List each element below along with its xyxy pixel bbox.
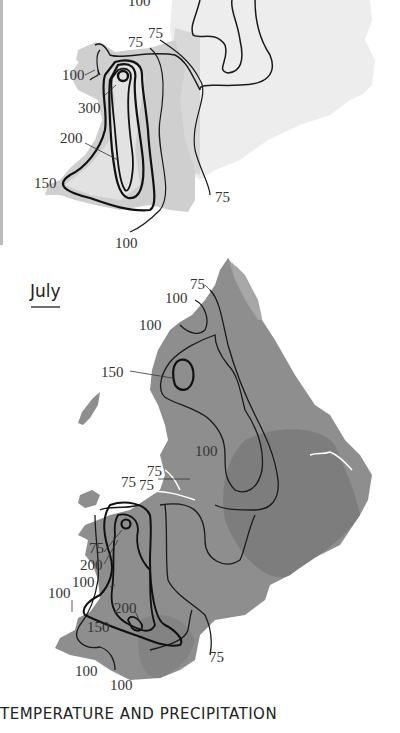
july-label-200-central: 200 <box>114 600 137 616</box>
july-label-75-c: 75 <box>139 477 154 493</box>
upper-label-100-south: 100 <box>115 235 138 251</box>
upper-label-75-se: 75 <box>215 189 230 205</box>
july-label-75-north: 75 <box>190 276 205 292</box>
upper-map: 100 75 75 100 300 200 150 75 100 <box>34 0 375 251</box>
rainfall-map-figure: 100 75 75 100 300 200 150 75 100 July <box>0 0 400 733</box>
upper-label-150: 150 <box>34 175 57 191</box>
upper-label-100-west: 100 <box>62 67 85 83</box>
july-label-100-pennines: 100 <box>195 443 218 459</box>
july-label-75-west: 75 <box>89 540 104 556</box>
july-label-150: 150 <box>101 364 124 380</box>
map-title-july: July <box>29 281 61 301</box>
july-label-100-west-b: 100 <box>48 585 71 601</box>
figure-caption: TEMPERATURE AND PRECIPITATION <box>0 705 277 723</box>
july-label-100-south-b: 100 <box>110 677 133 693</box>
lower-map-july: July <box>29 255 380 693</box>
july-label-75-b: 75 <box>121 474 136 490</box>
july-label-100-west-a: 100 <box>72 574 95 590</box>
upper-label-100-top: 100 <box>128 0 151 9</box>
upper-label-200: 200 <box>60 130 83 146</box>
july-label-100-a: 100 <box>165 290 188 306</box>
july-label-150-central: 150 <box>87 619 110 635</box>
upper-label-75-a: 75 <box>148 25 163 41</box>
lower-anglesey <box>78 490 100 508</box>
july-label-75-southeast: 75 <box>209 649 224 665</box>
july-label-100-b: 100 <box>139 317 162 333</box>
upper-label-75-b: 75 <box>128 34 143 50</box>
july-label-200-west: 200 <box>80 557 103 573</box>
isle-of-man <box>78 392 100 425</box>
july-label-100-south-a: 100 <box>75 663 98 679</box>
upper-label-300: 300 <box>78 100 101 116</box>
